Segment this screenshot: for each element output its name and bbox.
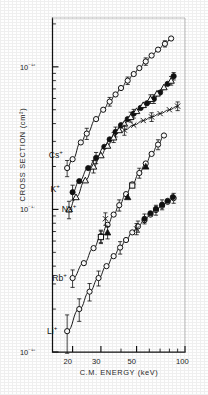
x-axis-tick-label: 100 [176,357,189,366]
x-axis-tick-label: 20 [64,357,72,366]
series-annotation-na: Na+ [62,202,77,214]
series-annotation-cs: Cs+ [49,148,63,160]
chart-canvas [0,0,208,395]
series-csplus [65,36,174,177]
x-axis-tick-label: 30 [92,357,100,366]
series-rbplus-triangle-overlay [104,163,149,239]
series-liplus-filled-overlay [142,194,176,223]
y-axis-tick-label: 10⁻¹⁸ [20,347,35,357]
series-annotation-rb: Rb+ [52,271,67,283]
series-annotation-li: Li+ [47,324,57,336]
series-rbplus-square-overlay [98,183,135,244]
series-annotation-k: K+ [51,182,60,194]
x-axis-tick-label: 50 [128,357,136,366]
y-axis-tick-label: 10⁻¹⁷ [20,204,35,214]
series-liplus [65,193,177,353]
figure-panel: CROSS SECTION (cm²) C.M. ENERGY (keV) 20… [0,0,208,395]
y-axis-tick-label: 10⁻¹⁶ [20,62,35,72]
series-rbplus [70,133,167,288]
x-axis-label: C.M. ENERGY (keV) [52,368,186,377]
